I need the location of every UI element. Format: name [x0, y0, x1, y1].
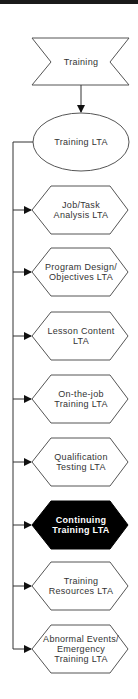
- node-job-task-analysis: Job/Task Analysis LTA: [40, 194, 122, 226]
- root-node-label: Training: [50, 50, 112, 74]
- node-program-design: Program Design/ Objectives LTA: [40, 256, 122, 288]
- trunk-connector: [13, 142, 33, 649]
- node-training-resources: Training Resources LTA: [40, 570, 122, 602]
- node-on-the-job-training: On-the-job Training LTA: [40, 383, 122, 415]
- branch-connectors: [13, 210, 31, 649]
- node-lesson-content: Lesson Content LTA: [40, 320, 122, 352]
- node-abnormal-events: Abnormal Events/ Emergency Training LTA: [38, 631, 124, 667]
- hub-node-label: Training LTA: [38, 130, 124, 154]
- node-continuing-training: Continuing Training LTA: [40, 509, 122, 541]
- node-qualification-testing: Qualification Testing LTA: [40, 446, 122, 478]
